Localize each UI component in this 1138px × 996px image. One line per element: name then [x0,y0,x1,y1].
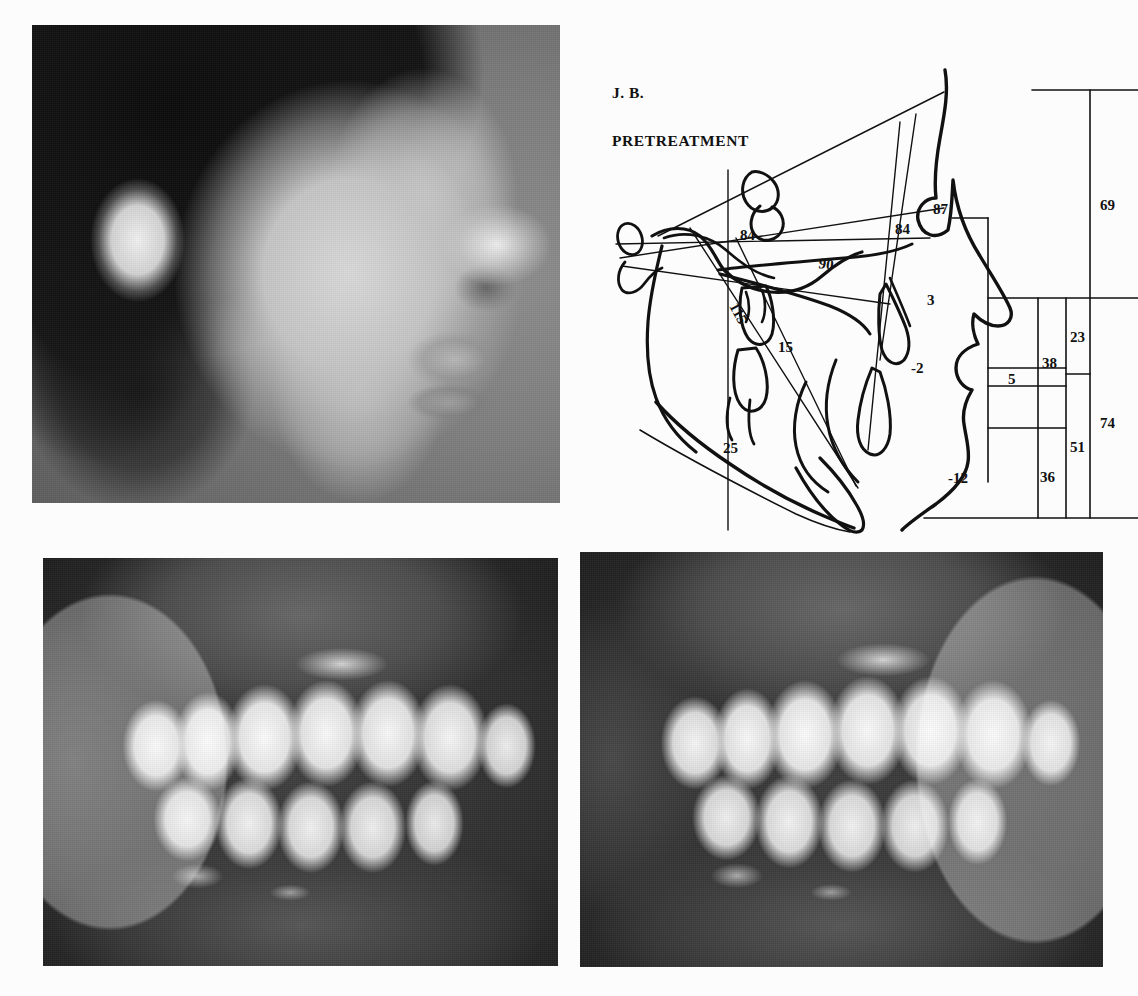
film-grain-overlay [580,552,1103,967]
lower-incisor-outline [858,368,891,455]
film-grain-overlay [32,25,560,503]
patient-initials-label: J. B. [612,84,644,101]
measurement-label-gonial-angle: 25 [723,440,738,456]
measurement-label-facial-angle: 87 [933,201,949,217]
measurement-label-upper-lip-length: 23 [1070,329,1085,345]
measurement-label-snb: 84 [895,221,911,237]
measurement-label-sna: 84 [740,227,756,243]
cephalometric-tracing: J. B. PRETREATMENT 84 84 87 90 115 15 25… [600,30,1138,550]
measurement-label-upper-incisor-protrusion: 3 [927,292,935,308]
upper-incisor-root [890,278,910,326]
intraoral-left-buccal-photograph [580,552,1103,967]
measurement-label-mandibular-plane-to-sn: 90 [818,255,835,273]
measurement-label-lower-anterior-face-height: 74 [1100,415,1116,431]
measurement-label-overbite: 5 [1008,371,1016,387]
lateral-profile-photograph [32,25,560,503]
measurement-label-lower-incisor-to-mandibular-plane: 15 [778,339,793,355]
vertical-measurement-ladder [924,90,1138,518]
gonial-angle-guide [640,430,850,532]
sella-turcica-outline [614,220,647,258]
film-grain-overlay [43,558,558,966]
intraoral-right-buccal-photograph [43,558,558,966]
lower-incisor-axis-line [868,122,900,450]
ramus-posterior-border [647,246,696,452]
palatal-plane-outline [718,244,912,270]
measurement-label-lower-lip-to-chin: 51 [1070,439,1085,455]
upper-incisor-axis-line [880,114,916,360]
measurement-label-chin-position: -12 [948,470,968,486]
measurement-label-lower-face-height: 36 [1040,469,1056,485]
measurement-label-total-anterior-face-height-upper: 69 [1100,197,1115,213]
measurement-label-upper-face-height: 38 [1042,355,1057,371]
soft-tissue-profile-outline [902,70,1011,530]
treatment-stage-label: PRETREATMENT [612,132,749,149]
measurement-label-lower-incisor-protrusion: -2 [911,360,924,376]
